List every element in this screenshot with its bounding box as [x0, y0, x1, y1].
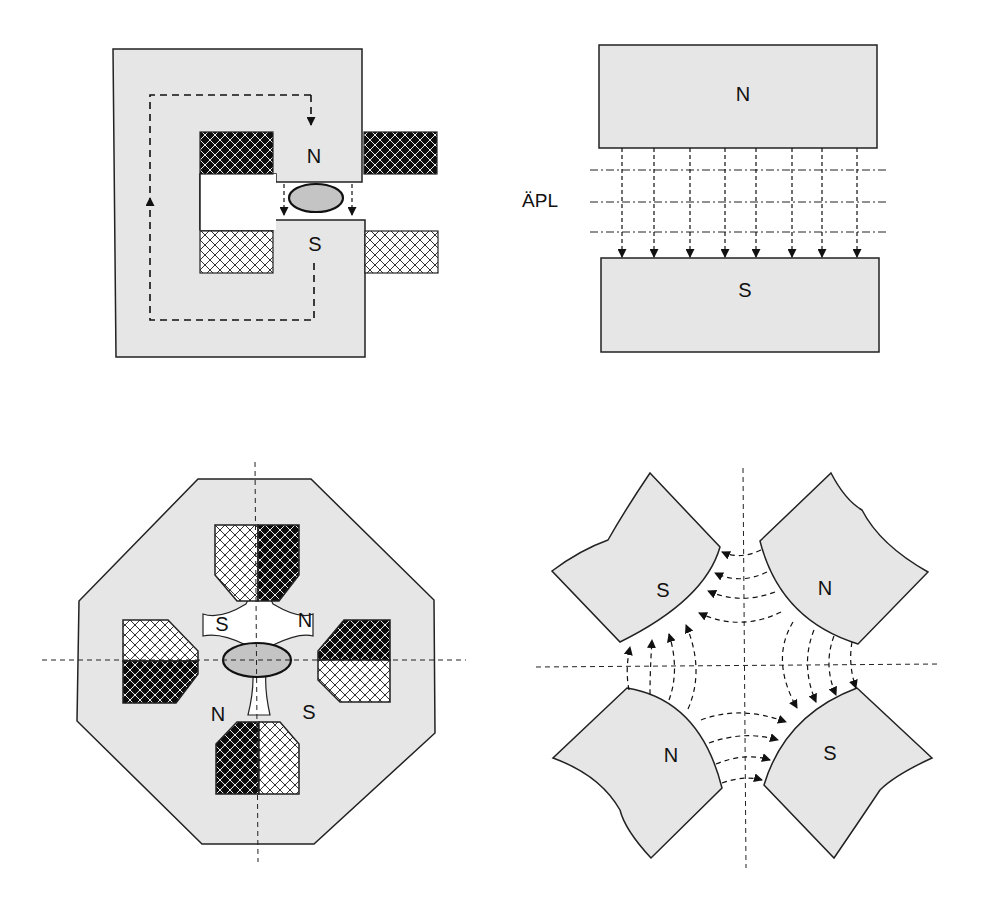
pole-label-n-top-right: N	[818, 577, 832, 599]
pole-label-s-top-left: S	[215, 613, 228, 635]
pole-n-top-right	[760, 473, 928, 644]
pole-n-bottom-left	[553, 688, 722, 858]
coil-bottom-left	[200, 231, 273, 273]
pole-label-s: S	[738, 279, 751, 301]
pole-s-top-left	[552, 473, 720, 642]
quadrupole-field-panel: S N N S	[536, 468, 940, 868]
pole-s-bottom-right	[764, 688, 932, 858]
coil-bottom-right	[365, 231, 438, 273]
pole-label-s-top-left: S	[656, 579, 669, 601]
dipole-field-panel: N S ÄPL	[522, 45, 888, 352]
coil-top-right	[364, 132, 437, 174]
pole-label-n-top-right: N	[298, 609, 312, 631]
pole-label-s-bottom-right: S	[302, 701, 315, 723]
pole-label-n: N	[307, 145, 321, 167]
magnet-diagram: N S N S ÄPL	[0, 0, 986, 923]
dipole-yoke-panel: N S	[113, 49, 438, 357]
pole-s-block	[601, 258, 879, 352]
coil-top	[215, 525, 299, 601]
pole-label-n-bottom-left: N	[211, 703, 225, 725]
side-label-apl: ÄPL	[522, 190, 558, 211]
pole-label-s-bottom-right: S	[823, 742, 836, 764]
pole-label-n: N	[736, 83, 750, 105]
pole-label-s: S	[308, 233, 321, 255]
pole-label-n-bottom-left: N	[664, 744, 678, 766]
quadrupole-yoke-panel: S N N S	[42, 462, 466, 862]
coil-top-left	[200, 132, 273, 174]
beam-ellipse	[289, 184, 343, 212]
